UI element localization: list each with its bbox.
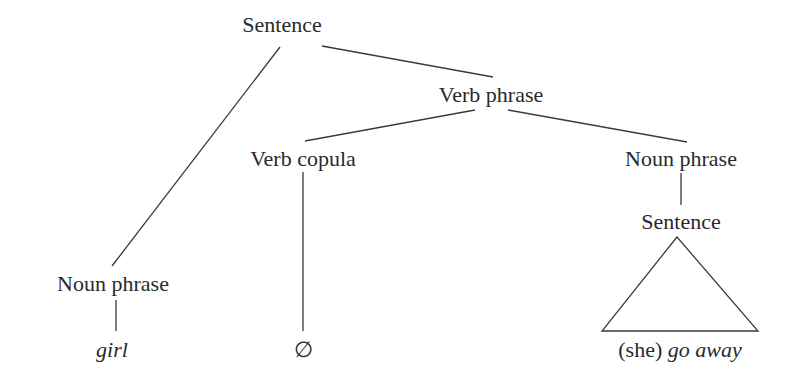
edge-sentence-to-verb-phrase [322,46,493,77]
leaf-null: ∅ [294,337,313,362]
node-verb-copula: Verb copula [250,146,356,171]
node-noun-phrase-subject: Noun phrase [57,271,169,296]
edge-verb-phrase-to-object-np [508,110,687,142]
triangle-embedded-sentence [602,237,758,331]
node-verb-phrase: Verb phrase [439,82,543,107]
leaf-she-go-away: (she) go away [618,337,742,362]
syntax-tree: Sentence Verb phrase Verb copula Noun ph… [0,0,793,380]
leaf-go-away: go away [668,337,742,362]
leaf-she: (she) [618,337,667,362]
edge-verb-phrase-to-copula [305,110,475,141]
leaf-girl: girl [96,337,128,362]
node-sentence-embedded: Sentence [641,209,720,234]
node-noun-phrase-object: Noun phrase [625,146,737,171]
node-sentence-root: Sentence [242,12,321,37]
